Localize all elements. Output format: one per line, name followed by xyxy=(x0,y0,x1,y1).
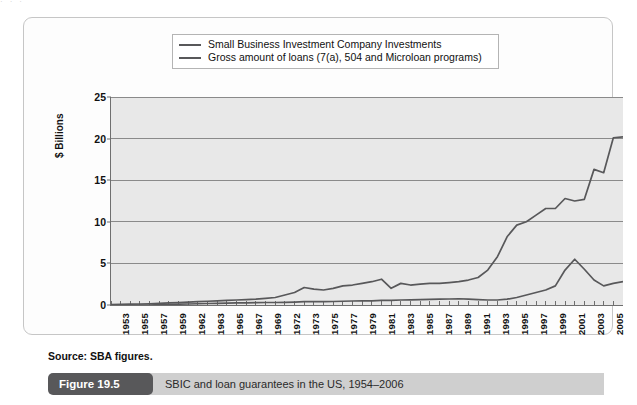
line-chart: $ Billions 05101520251953195519571959196… xyxy=(80,80,637,325)
x-tick-label: 1953 xyxy=(120,313,131,335)
x-tick-label: 1967 xyxy=(253,313,264,335)
x-tick-label: 1965 xyxy=(234,313,245,335)
y-tick-label: 20 xyxy=(94,133,106,145)
y-tick-mark xyxy=(107,97,111,98)
y-tick-label: 25 xyxy=(94,91,106,103)
y-tick-label: 15 xyxy=(94,174,106,186)
page-text-bleed: · · · xyxy=(0,0,637,9)
source-note: Source: SBA figures. xyxy=(48,350,153,362)
x-tick-label: 1973 xyxy=(310,313,321,335)
figure-caption-text: SBIC and loan guarantees in the US, 1954… xyxy=(147,373,604,395)
legend-line-swatch-sbic xyxy=(179,44,201,46)
y-tick-mark xyxy=(107,138,111,139)
series-line xyxy=(111,137,623,305)
x-tick-label: 2005 xyxy=(614,313,625,335)
x-tick-label: 1995 xyxy=(519,313,530,335)
y-axis-title: $ Billions xyxy=(54,114,65,158)
legend-label-sbic: Small Business Investment Company Invest… xyxy=(208,38,441,51)
x-tick-label: 2003 xyxy=(595,313,606,335)
y-tick-mark xyxy=(107,221,111,222)
x-tick-label: 1999 xyxy=(557,313,568,335)
y-tick-label: 0 xyxy=(100,299,106,311)
legend-item-sbic: Small Business Investment Company Invest… xyxy=(179,38,492,51)
x-tick-label: 1959 xyxy=(177,313,188,335)
y-tick-mark xyxy=(107,305,111,306)
x-tick-label: 1993 xyxy=(500,313,511,335)
x-tick-label: 1979 xyxy=(367,313,378,335)
legend-line-swatch-loans xyxy=(179,57,201,59)
chart-legend: Small Business Investment Company Invest… xyxy=(172,34,499,69)
x-tick-label: 1969 xyxy=(272,313,283,335)
x-tick-label: 1985 xyxy=(424,313,435,335)
plot-area: 0510152025195319551957195919621963196519… xyxy=(110,97,623,306)
legend-label-loans: Gross amount of loans (7(a), 504 and Mic… xyxy=(208,51,482,64)
y-tick-label: 5 xyxy=(100,257,106,269)
legend-item-loans: Gross amount of loans (7(a), 504 and Mic… xyxy=(179,51,492,64)
x-tick-label: 1977 xyxy=(348,313,359,335)
x-tick-label: 1963 xyxy=(215,313,226,335)
x-tick-label: 1981 xyxy=(386,313,397,335)
y-tick-mark xyxy=(107,180,111,181)
x-tick-label: 1955 xyxy=(139,313,150,335)
x-tick-label: 1997 xyxy=(538,313,549,335)
x-tick-label: 1989 xyxy=(462,313,473,335)
x-tick-label: 2001 xyxy=(576,313,587,335)
y-tick-mark xyxy=(107,263,111,264)
x-tick-label: 1983 xyxy=(405,313,416,335)
figure-panel: Small Business Investment Company Invest… xyxy=(23,17,613,335)
plot-lines xyxy=(111,97,623,305)
figure-number: Figure 19.5 xyxy=(48,373,153,395)
x-tick-label: 1957 xyxy=(158,313,169,335)
x-tick-label: 1975 xyxy=(329,313,340,335)
x-tick-label: 1987 xyxy=(443,313,454,335)
x-tick-label: 1962 xyxy=(196,313,207,335)
x-tick-label: 1972 xyxy=(291,313,302,335)
y-tick-label: 10 xyxy=(94,216,106,228)
figure-caption: Figure 19.5 SBIC and loan guarantees in … xyxy=(48,373,604,395)
x-tick-label: 1991 xyxy=(481,313,492,335)
